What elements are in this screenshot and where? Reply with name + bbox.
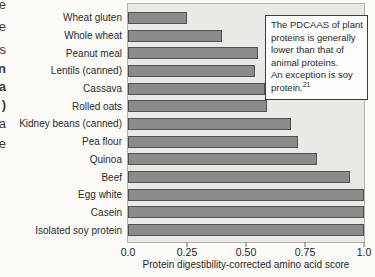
bar-lentils-canned	[128, 65, 255, 77]
bar-row: Pea flour	[0, 133, 364, 151]
annotation-line: animal proteins.	[271, 57, 363, 70]
bar-label-lentils-canned: Lentils (canned)	[0, 65, 128, 76]
annotation-line-text: protein.	[271, 82, 303, 93]
bar-track	[128, 171, 364, 183]
bar-pea-flour	[128, 136, 298, 148]
margin-letter-fragment: e	[0, 137, 6, 150]
annotation-line: The PDCAAS of plant	[271, 19, 363, 32]
bar-isolated-soy-protein	[128, 224, 364, 236]
bar-label-whole-wheat: Whole wheat	[0, 30, 128, 41]
annotation-line-last: protein.21	[271, 82, 363, 95]
margin-letter-fragment: s	[0, 43, 6, 56]
margin-letter-fragment: e	[0, 0, 6, 11]
x-axis-tick-labels: 0.00.250.500.751.0	[128, 246, 364, 259]
bar-row: Quinoa	[0, 151, 364, 169]
bar-label-cassava: Cassava	[0, 83, 128, 94]
bar-label-rolled-oats: Rolled oats	[0, 101, 128, 112]
bar-row: Kidney beans (canned)	[0, 115, 364, 133]
bar-track	[128, 118, 364, 130]
annotation-line: lower than that of	[271, 44, 363, 57]
bar-cassava	[128, 83, 265, 95]
annotation-superscript: 21	[303, 81, 311, 88]
bar-track	[128, 206, 364, 218]
bar-casein	[128, 206, 364, 218]
bar-row: Isolated soy protein	[0, 221, 364, 239]
bar-beef	[128, 171, 350, 183]
bar-track	[128, 100, 364, 112]
bar-egg-white	[128, 189, 364, 201]
bar-whole-wheat	[128, 30, 222, 42]
bar-label-peanut-meal: Peanut meal	[0, 48, 128, 59]
bar-wheat-gluten	[128, 12, 187, 24]
bar-label-pea-flour: Pea flour	[0, 136, 128, 147]
x-axis-tick-label: 0.25	[177, 246, 197, 259]
bar-row: Rolled oats	[0, 97, 364, 115]
bar-label-casein: Casein	[0, 207, 128, 218]
annotation-box: The PDCAAS of plant proteins is generall…	[265, 15, 368, 100]
bar-track	[128, 136, 364, 148]
bar-label-beef: Beef	[0, 172, 128, 183]
annotation-line: An exception is soy	[271, 69, 363, 82]
bar-label-quinoa: Quinoa	[0, 154, 128, 165]
x-axis-tick-label: 0.50	[236, 246, 256, 259]
x-axis-title: Protein digestibility-corrected amino ac…	[118, 259, 374, 270]
bar-label-kidney-beans-canned: Kidney beans (canned)	[0, 118, 128, 129]
left-margin-text: eesna)ae	[0, 0, 6, 160]
x-axis-tick-label: 1.0	[357, 246, 372, 259]
bar-kidney-beans-canned	[128, 118, 291, 130]
bar-track	[128, 153, 364, 165]
x-axis-tick-label: 0.0	[121, 246, 136, 259]
bar-row: Casein	[0, 204, 364, 222]
margin-letter-fragment: )	[0, 98, 6, 111]
bar-rolled-oats	[128, 100, 267, 112]
margin-letter-fragment: n	[0, 62, 6, 75]
bar-quinoa	[128, 153, 317, 165]
bar-row: Beef	[0, 168, 364, 186]
bar-label-wheat-gluten: Wheat gluten	[0, 12, 128, 23]
bar-row: Egg white	[0, 186, 364, 204]
margin-letter-fragment: a	[0, 117, 6, 130]
bar-peanut-meal	[128, 47, 258, 59]
x-axis-tick-label: 0.75	[295, 246, 315, 259]
annotation-line: proteins is generally	[271, 32, 363, 45]
bar-label-isolated-soy-protein: Isolated soy protein	[0, 225, 128, 236]
bar-label-egg-white: Egg white	[0, 189, 128, 200]
bar-track	[128, 189, 364, 201]
textbook-figure-page: eesna)ae Wheat glutenWhole wheatPeanut m…	[0, 0, 375, 277]
margin-letter-fragment: e	[0, 20, 6, 33]
bar-track	[128, 224, 364, 236]
margin-letter-fragment: a	[0, 80, 6, 93]
